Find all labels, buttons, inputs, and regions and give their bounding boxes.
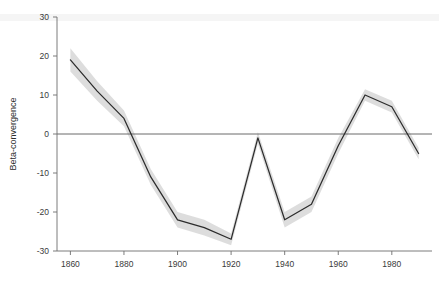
y-tick-label: 0 — [44, 129, 49, 139]
y-tick-label: 30 — [40, 12, 50, 22]
x-tick-label: 1980 — [382, 259, 401, 269]
x-tick-label: 1860 — [61, 259, 80, 269]
x-tick-label: 1960 — [329, 259, 348, 269]
y-axis-title: Beta-convergence — [8, 97, 18, 170]
y-tick-label: -30 — [37, 246, 50, 256]
x-tick-label: 1940 — [275, 259, 294, 269]
chart-background — [0, 0, 439, 286]
x-tick-label: 1920 — [222, 259, 241, 269]
chart-canvas: 3020100-10-20-30 18601880190019201940196… — [0, 0, 439, 286]
x-tick-label: 1880 — [115, 259, 134, 269]
y-tick-label: -10 — [37, 168, 50, 178]
x-tick-label: 1900 — [168, 259, 187, 269]
beta-convergence-chart: 3020100-10-20-30 18601880190019201940196… — [0, 0, 439, 286]
y-tick-label: 10 — [40, 90, 50, 100]
y-tick-label: 20 — [40, 51, 50, 61]
y-tick-label: -20 — [37, 207, 50, 217]
scan-artifact-streak — [0, 14, 439, 21]
